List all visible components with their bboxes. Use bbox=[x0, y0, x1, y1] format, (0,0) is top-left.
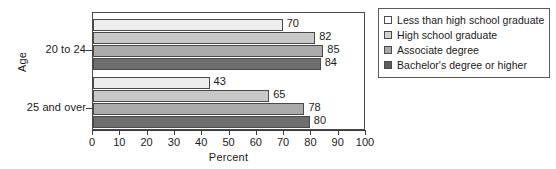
legend-swatch-icon bbox=[384, 31, 392, 39]
legend-item-label: Less than high school graduate bbox=[397, 14, 544, 26]
bar-row: 82 bbox=[93, 32, 364, 44]
bar-row: 43 bbox=[93, 77, 364, 89]
bar-group-20-to-24: 70 82 85 84 bbox=[93, 19, 364, 71]
bar-value: 80 bbox=[314, 114, 326, 126]
bar-less-than-high-school-20-to-24 bbox=[93, 19, 283, 31]
x-tick-100 bbox=[365, 130, 366, 135]
x-tick-label-0: 0 bbox=[89, 136, 95, 148]
x-tick-10 bbox=[119, 130, 120, 135]
x-tick-60 bbox=[256, 130, 257, 135]
legend-item: Less than high school graduate bbox=[384, 13, 544, 27]
legend: Less than high school graduate High scho… bbox=[378, 8, 550, 78]
x-axis-title: Percent bbox=[92, 151, 365, 163]
bar-group-25-and-over: 43 65 78 80 bbox=[93, 77, 364, 129]
bar-row: 80 bbox=[93, 116, 364, 128]
bar-less-than-high-school-25-and-over bbox=[93, 77, 210, 89]
legend-swatch-icon bbox=[384, 16, 392, 24]
bar-value: 43 bbox=[214, 75, 226, 87]
x-tick-20 bbox=[147, 130, 148, 135]
legend-swatch-icon bbox=[384, 46, 392, 54]
x-tick-label-20: 20 bbox=[140, 136, 152, 148]
bar-value: 85 bbox=[327, 43, 339, 55]
bar-row: 65 bbox=[93, 90, 364, 102]
x-tick-label-70: 70 bbox=[277, 136, 289, 148]
bar-high-school-graduate-20-to-24 bbox=[93, 32, 315, 44]
legend-item-label: Associate degree bbox=[397, 44, 479, 56]
x-tick-label-50: 50 bbox=[222, 136, 234, 148]
x-tick-label-60: 60 bbox=[250, 136, 262, 148]
x-tick-50 bbox=[229, 130, 230, 135]
legend-item: High school graduate bbox=[384, 28, 544, 42]
bar-value: 70 bbox=[287, 17, 299, 29]
x-tick-90 bbox=[338, 130, 339, 135]
legend-item: Associate degree bbox=[384, 43, 544, 57]
bars-layer: 70 82 85 84 43 bbox=[93, 13, 364, 129]
bar-chart: Age 20 to 24 25 and over 70 82 85 bbox=[0, 0, 556, 169]
category-axis-labels: 20 to 24 25 and over bbox=[18, 12, 86, 130]
legend-swatch-icon bbox=[384, 61, 392, 69]
bar-bachelors-or-higher-25-and-over bbox=[93, 116, 310, 128]
bar-value: 82 bbox=[319, 30, 331, 42]
legend-item: Bachelor's degree or higher bbox=[384, 58, 544, 72]
bar-high-school-graduate-25-and-over bbox=[93, 90, 269, 102]
x-tick-label-40: 40 bbox=[195, 136, 207, 148]
x-tick-label-10: 10 bbox=[113, 136, 125, 148]
bar-value: 78 bbox=[308, 101, 320, 113]
bar-associate-degree-25-and-over bbox=[93, 103, 304, 115]
plot-area: 70 82 85 84 43 bbox=[92, 12, 365, 130]
x-tick-70 bbox=[283, 130, 284, 135]
bar-associate-degree-20-to-24 bbox=[93, 45, 323, 57]
x-tick-30 bbox=[174, 130, 175, 135]
bar-value: 84 bbox=[325, 56, 337, 68]
bar-row: 84 bbox=[93, 58, 364, 70]
x-tick-label-30: 30 bbox=[168, 136, 180, 148]
x-tick-label-90: 90 bbox=[332, 136, 344, 148]
legend-item-label: Bachelor's degree or higher bbox=[397, 59, 527, 71]
category-label-20-to-24: 20 to 24 bbox=[45, 43, 86, 55]
bar-value: 65 bbox=[273, 88, 285, 100]
legend-item-label: High school graduate bbox=[397, 29, 497, 41]
category-label-25-and-over: 25 and over bbox=[27, 101, 86, 113]
x-tick-label-100: 100 bbox=[356, 136, 374, 148]
x-tick-label-80: 80 bbox=[304, 136, 316, 148]
x-tick-80 bbox=[310, 130, 311, 135]
bar-bachelors-or-higher-20-to-24 bbox=[93, 58, 321, 70]
x-tick-40 bbox=[201, 130, 202, 135]
bar-row: 85 bbox=[93, 45, 364, 57]
x-tick-0 bbox=[92, 130, 93, 135]
